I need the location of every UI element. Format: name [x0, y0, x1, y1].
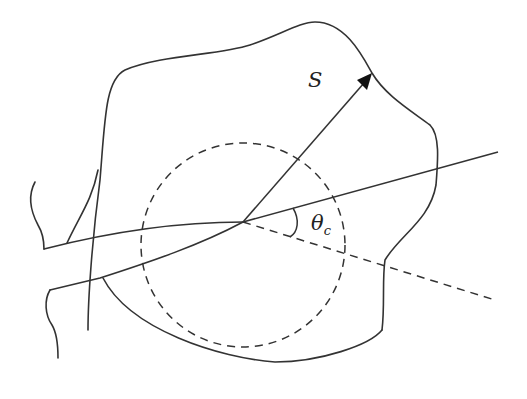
diagram-canvas: S θc — [0, 0, 527, 399]
angle-arc — [290, 208, 297, 237]
angle-label: θc — [311, 211, 332, 238]
left-edge-lower — [46, 290, 58, 358]
dashed-line — [243, 222, 495, 300]
angle-symbol: θ — [311, 211, 324, 235]
vector-label: S — [308, 68, 322, 92]
solid-line — [243, 152, 498, 222]
region-boundary-upper — [88, 22, 438, 330]
dashed-circle — [141, 143, 345, 347]
left-edge-upper — [31, 182, 44, 249]
angle-subscript: c — [324, 223, 332, 238]
region-boundary-lower — [103, 278, 382, 362]
vector-s-shaft — [243, 83, 364, 222]
